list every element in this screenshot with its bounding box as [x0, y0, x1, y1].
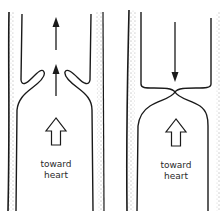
label-toward-heart-left: toward heart	[26, 159, 86, 181]
label-line-2: heart	[26, 170, 86, 181]
label-line-1: toward	[146, 160, 206, 171]
panel-open-valve: toward heart	[0, 0, 110, 211]
hollow-arrow-up-icon	[46, 118, 66, 145]
valve-upper-cusp	[141, 12, 211, 92]
right-wall-stipple	[216, 12, 220, 211]
vein-valve-diagram: toward heart	[0, 0, 220, 211]
hollow-arrow-up-icon	[166, 119, 186, 146]
label-toward-heart-right: toward heart	[146, 160, 206, 182]
label-line-2: heart	[146, 171, 206, 182]
arrow-down-icon	[172, 22, 179, 82]
panel-closed-valve: toward heart	[110, 0, 220, 211]
left-wall-outer-line	[8, 12, 9, 211]
arrow-up-icon	[53, 17, 60, 50]
left-valve-lower-curve	[137, 92, 175, 211]
right-valve-lower-curve	[175, 92, 208, 211]
label-line-1: toward	[26, 159, 86, 170]
right-valve-flap	[65, 14, 93, 211]
left-valve-flap	[16, 14, 44, 211]
arrow-up-icon	[53, 64, 60, 96]
